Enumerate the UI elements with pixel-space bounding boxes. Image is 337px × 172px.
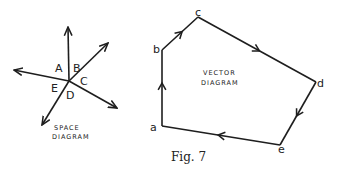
figure-caption: Fig. 7 <box>171 150 206 164</box>
space-label-c: C <box>80 75 88 88</box>
space-label-e: E <box>51 82 58 95</box>
space-label-b: B <box>73 62 81 75</box>
space-label-a: A <box>55 62 63 75</box>
space-diagram-title-2: DIAGRAM <box>52 133 90 141</box>
vector-label-e: e <box>278 143 285 156</box>
vector-diagram-title-2: DIAGRAM <box>201 79 239 87</box>
vector-edge-bc <box>162 17 198 50</box>
vector-edge-ea <box>162 126 280 145</box>
vector-diagram-title-1: VECTOR <box>203 69 236 77</box>
force-arrow-up <box>68 27 69 81</box>
vector-edge-de <box>280 82 316 145</box>
force-arrow-lower-right <box>69 81 117 108</box>
vector-label-b: b <box>153 43 160 56</box>
space-diagram-title-1: SPACE <box>54 124 80 132</box>
space-label-d: D <box>66 89 74 102</box>
vector-label-d: d <box>317 77 324 90</box>
figure-7: A B C E D SPACE DIAGRAM a b c d e VECTOR… <box>0 0 337 172</box>
space-diagram: A B C E D SPACE DIAGRAM <box>14 27 117 141</box>
vector-diagram: a b c d e VECTOR DIAGRAM <box>150 6 324 156</box>
vector-label-a: a <box>150 121 157 134</box>
vector-label-c: c <box>195 6 201 19</box>
